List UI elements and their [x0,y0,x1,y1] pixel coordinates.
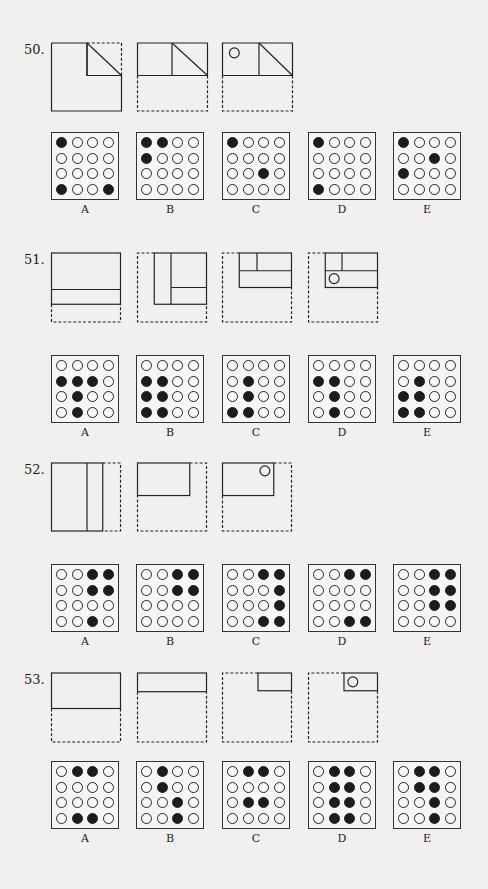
empty-hole-icon [172,391,183,402]
filled-hole-icon [188,569,199,580]
filled-hole-icon [313,137,324,148]
empty-hole-icon [344,391,355,402]
empty-hole-icon [172,600,183,611]
answer-choice-e[interactable]: E [393,761,463,845]
empty-hole-icon [103,407,114,418]
answer-choice-c[interactable]: C [222,132,292,216]
empty-hole-icon [360,797,371,808]
empty-hole-icon [172,184,183,195]
empty-hole-icon [398,766,409,777]
empty-hole-icon [258,360,269,371]
answer-choice-d[interactable]: D [308,564,378,648]
filled-hole-icon [56,137,67,148]
answer-choice-d[interactable]: D [308,761,378,845]
empty-hole-icon [227,376,238,387]
answer-choice-b[interactable]: B [136,132,206,216]
empty-hole-icon [445,407,456,418]
empty-hole-icon [398,184,409,195]
filled-hole-icon [258,616,269,627]
hole-grid [222,355,290,423]
empty-hole-icon [72,600,83,611]
empty-hole-icon [329,616,340,627]
answer-choice-c[interactable]: C [222,355,292,439]
answer-choice-d[interactable]: D [308,355,378,439]
answer-choice-a[interactable]: A [51,761,121,845]
filled-hole-icon [87,766,98,777]
empty-hole-icon [329,153,340,164]
empty-hole-icon [72,569,83,580]
empty-hole-icon [258,184,269,195]
empty-hole-icon [414,569,425,580]
filled-hole-icon [141,137,152,148]
empty-hole-icon [87,360,98,371]
answer-choice-a[interactable]: A [51,132,121,216]
empty-hole-icon [188,813,199,824]
empty-hole-icon [188,766,199,777]
choice-label: A [51,832,119,845]
empty-hole-icon [227,168,238,179]
filled-hole-icon [56,184,67,195]
hole-grid [136,564,204,632]
filled-hole-icon [274,585,285,596]
empty-hole-icon [313,407,324,418]
hole-grid [393,132,461,200]
filled-hole-icon [344,569,355,580]
empty-hole-icon [429,184,440,195]
hole-grid [51,355,119,423]
answer-choice-c[interactable]: C [222,761,292,845]
empty-hole-icon [313,585,324,596]
filled-hole-icon [157,376,168,387]
choice-label: C [222,203,290,216]
empty-hole-icon [313,766,324,777]
empty-hole-icon [56,407,67,418]
fold-step-2 [137,253,208,322]
choice-label: B [136,635,204,648]
problem-number: 50. [24,42,45,57]
empty-hole-icon [56,813,67,824]
filled-hole-icon [344,616,355,627]
answer-choice-c[interactable]: C [222,564,292,648]
filled-hole-icon [414,766,425,777]
filled-hole-icon [329,407,340,418]
fold-step-3 [222,253,293,322]
empty-hole-icon [414,137,425,148]
filled-hole-icon [258,569,269,580]
answer-choice-a[interactable]: A [51,564,121,648]
empty-hole-icon [243,184,254,195]
filled-hole-icon [398,168,409,179]
answer-choice-e[interactable]: E [393,564,463,648]
empty-hole-icon [258,782,269,793]
empty-hole-icon [344,407,355,418]
filled-hole-icon [157,782,168,793]
empty-hole-icon [445,391,456,402]
empty-hole-icon [87,137,98,148]
fold-step-2 [137,463,208,532]
punch-hole-icon [348,677,358,687]
empty-hole-icon [445,360,456,371]
empty-hole-icon [274,407,285,418]
empty-hole-icon [398,616,409,627]
empty-hole-icon [414,153,425,164]
fold-step-2 [137,673,208,742]
empty-hole-icon [344,168,355,179]
empty-hole-icon [445,797,456,808]
empty-hole-icon [445,616,456,627]
empty-hole-icon [360,782,371,793]
hole-grid [308,355,376,423]
filled-hole-icon [360,569,371,580]
answer-choice-e[interactable]: E [393,132,463,216]
empty-hole-icon [188,600,199,611]
empty-hole-icon [72,153,83,164]
answer-choice-d[interactable]: D [308,132,378,216]
empty-hole-icon [157,797,168,808]
filled-hole-icon [429,797,440,808]
answer-choice-a[interactable]: A [51,355,121,439]
hole-grid [393,761,461,829]
answer-choice-e[interactable]: E [393,355,463,439]
empty-hole-icon [313,168,324,179]
answer-choice-b[interactable]: B [136,355,206,439]
hole-grid [136,761,204,829]
answer-choice-b[interactable]: B [136,564,206,648]
empty-hole-icon [313,600,324,611]
answer-choice-b[interactable]: B [136,761,206,845]
